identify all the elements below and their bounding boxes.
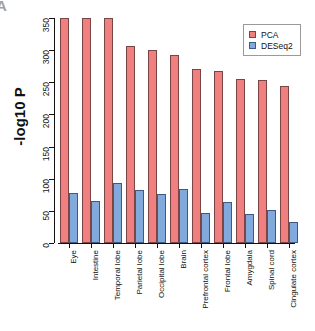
x-tick-label: Frontal lobe (216, 250, 230, 328)
x-tick-label: Temporal lobe (106, 250, 120, 328)
x-tick-label: Amygdala (238, 250, 252, 328)
bar-pca (104, 18, 112, 243)
x-tick-mark (157, 244, 158, 248)
bar-pca (192, 69, 200, 243)
x-axis-line (58, 243, 295, 244)
y-tick-label: 50 (0, 206, 46, 216)
x-tick-label: Occipital lobe (150, 250, 164, 328)
y-tick-label-text: 150 (41, 147, 51, 161)
bar-group (60, 18, 77, 243)
bar-pca (236, 79, 244, 243)
x-tick-label-text: Frontal lobe (223, 250, 232, 292)
x-tick-label-text: Temporal lobe (113, 250, 122, 300)
x-tick-label-text: Amygdala (245, 250, 254, 286)
y-tick-label: 350 (0, 13, 46, 23)
legend-swatch-pca-icon (249, 31, 256, 38)
bar-pca (258, 80, 266, 243)
bar-group (82, 18, 99, 243)
x-tick-label: Brain (172, 250, 186, 328)
x-tick-mark (245, 244, 246, 248)
chart-legend: PCA DESeq2 (243, 24, 301, 56)
x-tick-mark (267, 244, 268, 248)
legend-item-deseq2: DESeq2 (249, 40, 293, 51)
bar-deseq2 (267, 210, 275, 243)
y-tick-label-text: 100 (41, 179, 51, 193)
bar-pca (126, 46, 134, 243)
bar-deseq2 (223, 202, 231, 243)
bar-chart-figure: A -log10 P 050100150200250300350 EyeInte… (0, 0, 315, 331)
x-tick-mark (135, 244, 136, 248)
y-tick-label-text: 300 (41, 50, 51, 64)
x-tick-label: Parietal lobe (128, 250, 142, 328)
x-tick-label: Intestine (84, 250, 98, 328)
y-tick-label: 100 (0, 174, 46, 184)
x-tick-mark (91, 244, 92, 248)
bar-pca (60, 18, 68, 243)
legend-item-pca: PCA (249, 29, 293, 40)
bar-deseq2 (135, 190, 143, 243)
x-tick-label: Eye (62, 250, 76, 328)
bar-group (192, 18, 209, 243)
y-tick-label: 0 (0, 238, 46, 248)
bar-pca (148, 50, 156, 244)
y-tick-label-text: 0 (41, 243, 51, 248)
bar-pca (280, 86, 288, 243)
bar-deseq2 (113, 183, 121, 243)
x-tick-label-text: Intestine (91, 250, 100, 280)
x-tick-mark (201, 244, 202, 248)
panel-letter: A (0, 0, 7, 14)
bar-pca (170, 55, 178, 243)
bar-pca (214, 71, 222, 243)
bar-deseq2 (91, 201, 99, 243)
bar-group (148, 18, 165, 243)
bar-deseq2 (157, 194, 165, 244)
y-tick-label-text: 350 (41, 18, 51, 32)
y-tick-label: 200 (0, 109, 46, 119)
y-tick-label: 300 (0, 45, 46, 55)
x-tick-mark (113, 244, 114, 248)
x-tick-mark (179, 244, 180, 248)
y-tick-label-text: 200 (41, 114, 51, 128)
bar-deseq2 (289, 222, 297, 243)
bar-pca (82, 18, 90, 243)
bar-group (104, 18, 121, 243)
x-tick-label: Cingulate cortex (282, 250, 296, 328)
bar-group (126, 18, 143, 243)
bar-deseq2 (201, 213, 209, 243)
bar-group (214, 18, 231, 243)
x-tick-label-text: Cingulate cortex (289, 250, 298, 308)
bar-group (170, 18, 187, 243)
x-tick-mark (69, 244, 70, 248)
x-tick-mark (289, 244, 290, 248)
legend-swatch-deseq2-icon (249, 42, 256, 49)
y-tick-label-text: 250 (41, 82, 51, 96)
legend-label-pca: PCA (261, 30, 278, 40)
x-tick-label: Spinal cord (260, 250, 274, 328)
bar-deseq2 (179, 189, 187, 243)
y-tick-label: 150 (0, 142, 46, 152)
bar-deseq2 (245, 214, 253, 243)
x-tick-label-text: Occipital lobe (157, 250, 166, 298)
y-axis-line (54, 18, 55, 243)
x-tick-label-text: Brain (179, 250, 188, 269)
y-tick-label-text: 50 (41, 211, 51, 220)
x-tick-label-text: Parietal lobe (135, 250, 144, 294)
x-tick-mark (223, 244, 224, 248)
legend-label-deseq2: DESeq2 (261, 41, 293, 51)
x-tick-label: Prefrontal cortex (194, 250, 208, 328)
x-tick-label-text: Spinal cord (267, 250, 276, 290)
x-tick-label-text: Prefrontal cortex (201, 250, 210, 309)
x-tick-label-text: Eye (69, 250, 78, 264)
y-tick-label: 250 (0, 77, 46, 87)
bar-deseq2 (69, 193, 77, 243)
